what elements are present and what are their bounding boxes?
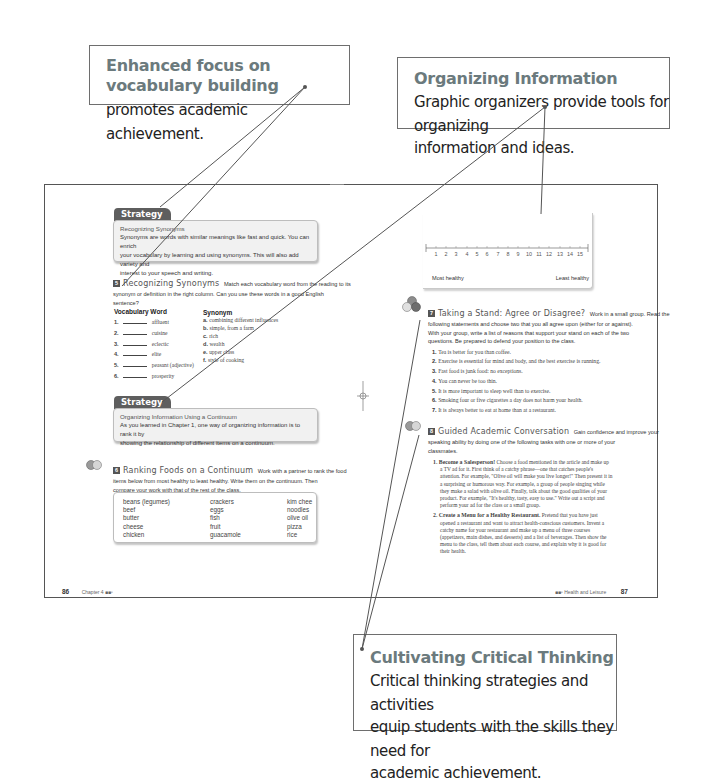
food-column-1: beans (legumes) beef butter cheese chick… — [123, 498, 170, 539]
exercise-7: 7Taking a Stand: Agree or Disagree? Work… — [428, 302, 658, 414]
exercise-number: 5 — [113, 280, 120, 287]
synonym-text: rich — [209, 333, 218, 339]
food-item: guacamole — [210, 531, 241, 539]
vocab-item: 4.elite — [114, 350, 204, 358]
strategy-heading: Organizing Information Using a Continuum — [120, 412, 311, 421]
exercise-number: 8 — [428, 428, 435, 435]
task-text: they make a salad with olive oil. Finall… — [433, 488, 658, 495]
statement-number: 5. — [432, 388, 437, 394]
statement-item: 5. It is more important to sleep well th… — [432, 387, 658, 395]
exercise-instructions: Match each vocabulary word from the read… — [224, 281, 351, 287]
task-text: product. For example, "It's healthy, tas… — [433, 495, 658, 502]
answer-blank[interactable] — [123, 350, 147, 356]
tick-label: 9 — [513, 251, 523, 257]
statement-item: 6. Smoking four or five cigarettes a day… — [432, 396, 658, 404]
answer-blank[interactable] — [123, 329, 147, 335]
gutter-mark — [330, 184, 344, 185]
food-item: butter — [123, 514, 170, 522]
tick-label: 8 — [503, 251, 513, 257]
statement-item: 1. Tea is better for you than coffee. — [432, 348, 658, 356]
statement-text: Smoking four or five cigarettes a day do… — [438, 397, 582, 403]
exercise-8: 8Guided Academic Conversation Gain confi… — [428, 420, 658, 556]
synonym-text: combining different influences — [209, 317, 278, 323]
callout-organizing-body-2: information and ideas. — [414, 136, 669, 160]
registration-mark-icon — [357, 381, 369, 415]
vocab-item: 6.prosperity — [114, 372, 204, 380]
task-text: menu to the class, tell them about each … — [433, 541, 658, 548]
food-item: chicken — [123, 531, 170, 539]
statement-text: It is always better to eat at home than … — [438, 407, 556, 413]
statement-number: 2. — [432, 358, 437, 364]
vocab-word: cuisine — [152, 330, 168, 336]
food-item: pizza — [287, 523, 312, 531]
task-text: a TV ad for it. First think of a catchy … — [433, 466, 658, 473]
exercise-5: 5Recognizing Synonyms Match each vocabul… — [113, 272, 323, 307]
task-text: (appetizers, main dishes, and desserts) … — [433, 534, 658, 541]
synonym-column-header: Synonym — [203, 309, 313, 316]
exercise-instructions: speaking ability by doing one of the fol… — [428, 438, 658, 447]
answer-blank[interactable] — [123, 340, 147, 346]
chapter-label: Chapter 4 ■■▫ — [82, 589, 113, 595]
answer-blank[interactable] — [123, 361, 147, 367]
exercise-instructions: With your group, write a list of reasons… — [428, 329, 658, 338]
food-item: noodles — [287, 506, 312, 514]
strategy-box-synonyms: Recognizing Synonyms Synonyms are words … — [113, 220, 318, 262]
statement-text: Exercise is essential for mind and body,… — [438, 358, 600, 364]
food-item: rice — [287, 531, 312, 539]
vocabulary-column: Vocabulary Word 1.affluent 2.cuisine 3.e… — [114, 308, 204, 380]
callout-critical-body-1: Critical thinking strategies and activit… — [370, 669, 616, 717]
synonym-letter: e. — [203, 349, 208, 355]
tick-label: 7 — [493, 251, 503, 257]
statement-number: 7. — [432, 407, 437, 413]
tick-label: 11 — [534, 251, 544, 257]
tick-label: 6 — [482, 251, 492, 257]
callout-critical-body-3: academic achievement. — [370, 761, 616, 782]
food-item: fruit — [210, 523, 241, 531]
food-item: beef — [123, 506, 170, 514]
exercise-instructions: Work in a small group. Read the — [590, 311, 670, 317]
synonym-letter: d. — [203, 341, 208, 347]
synonym-letter: c. — [203, 333, 208, 339]
task-line: 2. Create a Menu for a Healthy Restauran… — [433, 512, 658, 519]
page-number: 87 — [621, 588, 628, 595]
answer-blank[interactable] — [123, 372, 147, 378]
synonym-item: d. wealth — [203, 340, 313, 348]
vocab-number: 2. — [114, 330, 119, 336]
exercise-instructions: Gain confidence and improve your — [574, 429, 659, 435]
synonym-item: b. simple, from a farm — [203, 324, 313, 332]
least-healthy-label: Least healthy — [556, 274, 589, 283]
vocab-word: peasant (adjective) — [152, 362, 194, 368]
callout-organizing-title: Organizing Information — [414, 69, 669, 89]
callout-vocabulary: Enhanced focus on vocabulary building pr… — [89, 45, 350, 105]
callout-critical-thinking: Cultivating Critical Thinking Critical t… — [353, 634, 617, 731]
answer-blank[interactable] — [123, 318, 147, 324]
strategy-text-line: your vocabulary by learning and using sy… — [120, 251, 311, 269]
food-item: eggs — [210, 506, 241, 514]
food-item: fish — [210, 514, 241, 522]
task-text: opened a restaurant and want to attract … — [433, 520, 658, 527]
callout-critical-body-2: equip students with the skills they need… — [370, 715, 616, 763]
task-text: their health. — [433, 548, 658, 555]
vocab-number: 1. — [114, 319, 119, 325]
synonym-item: e. upper class — [203, 348, 313, 356]
vocab-item: 5.peasant (adjective) — [114, 361, 204, 369]
food-item: cheese — [123, 523, 170, 531]
exercise-instructions: questions. Be prepared to defend your po… — [428, 337, 658, 346]
tick-label: 3 — [451, 251, 461, 257]
statement-text: It is more important to sleep well than … — [438, 388, 550, 394]
callout-vocabulary-body: promotes academic achievement. — [106, 98, 349, 146]
food-item: crackers — [210, 498, 241, 506]
tick-label: 5 — [472, 251, 482, 257]
exercise-instructions: sentence? — [113, 299, 323, 308]
statement-item: 2. Exercise is essential for mind and bo… — [432, 357, 658, 365]
tick-label: 12 — [544, 251, 554, 257]
task-1: 1. Become a Salesperson! Choose a food m… — [433, 459, 658, 509]
task-title: Become a Salesperson! — [439, 459, 495, 465]
synonym-text: wealth — [210, 341, 225, 347]
vocab-number: 6. — [114, 373, 119, 379]
vocab-number: 4. — [114, 351, 119, 357]
vocab-word: affluent — [152, 319, 169, 325]
food-item: olive oil — [287, 514, 312, 522]
exercise-number: 6 — [113, 467, 120, 474]
vocab-item: 2.cuisine — [114, 329, 204, 337]
